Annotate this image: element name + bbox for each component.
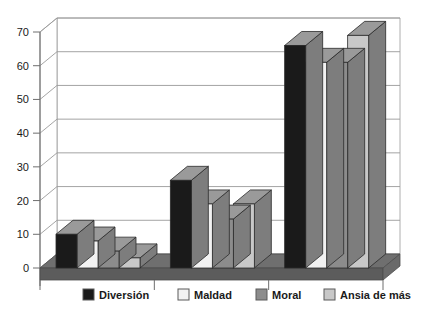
y-tick-label: 70 (17, 26, 29, 38)
bar-side (191, 166, 208, 268)
bar-front (285, 45, 306, 268)
legend-label: Maldad (194, 289, 232, 301)
legend-swatch (178, 289, 189, 300)
legend-label: Diversión (99, 289, 149, 301)
chart-legend: DiversiónMaldadMoralAnsia de más (83, 289, 411, 301)
chart-canvas: 010203040506070DiversiónMaldadMoralAnsia… (0, 0, 424, 324)
bar-chart: 010203040506070DiversiónMaldadMoralAnsia… (0, 0, 424, 324)
y-tick-label: 60 (17, 60, 29, 72)
legend-swatch (256, 289, 267, 300)
legend-item[interactable]: Ansia de más (324, 289, 411, 301)
bar-side (348, 48, 365, 268)
chart-backdrop: 010203040506070DiversiónMaldadMoralAnsia… (17, 18, 411, 301)
legend-item[interactable]: Maldad (178, 289, 232, 301)
bar (170, 166, 208, 268)
bar-side (369, 21, 386, 268)
bar-front (56, 234, 77, 268)
legend-item[interactable]: Moral (256, 289, 301, 301)
y-tick-label: 50 (17, 93, 29, 105)
bar-side (306, 31, 323, 268)
y-tick-label: 40 (17, 127, 29, 139)
y-tick-label: 30 (17, 161, 29, 173)
y-tick-label: 10 (17, 228, 29, 240)
legend-swatch (324, 289, 335, 300)
x-axis: DiversiónMaldadMoralAnsia de más (40, 280, 411, 301)
y-tick-label: 0 (23, 262, 29, 274)
legend-label: Ansia de más (340, 289, 411, 301)
bar-front (170, 180, 191, 268)
floor-front (40, 268, 383, 280)
left-wall (40, 18, 57, 268)
legend-item[interactable]: Diversión (83, 289, 149, 301)
bar (285, 31, 323, 268)
legend-label: Moral (272, 289, 301, 301)
y-tick-label: 20 (17, 195, 29, 207)
bar-side (327, 48, 344, 268)
legend-swatch (83, 289, 94, 300)
